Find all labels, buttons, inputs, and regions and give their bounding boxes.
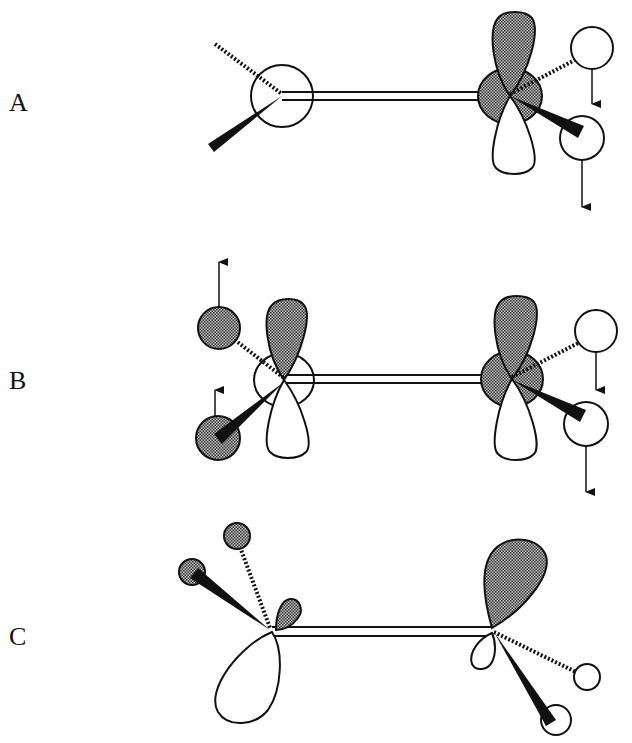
hydrogen-atom — [564, 402, 608, 446]
panel-c — [179, 523, 600, 735]
wedge-bond — [190, 568, 270, 630]
hydrogen-atom-shaded — [198, 307, 240, 349]
panel-b — [196, 262, 617, 492]
hybrid-orbital-shaded-lobe — [484, 540, 546, 628]
hydrogen-atom — [571, 27, 613, 69]
panel-a — [208, 12, 613, 207]
p-orbital-shaded-lobe — [267, 299, 307, 380]
hydrogen-atom — [560, 116, 604, 160]
hydrogen-atom — [575, 310, 617, 352]
wedge-bond — [494, 632, 556, 726]
hashed-bond — [240, 547, 270, 628]
hydrogen-atom-shaded — [224, 523, 250, 549]
hashed-bond — [215, 44, 282, 94]
hydrogen-atom — [574, 664, 600, 690]
hybrid-orbital-unshaded-lobe — [471, 633, 495, 669]
hybrid-orbital-unshaded-lobe — [215, 632, 280, 723]
orbital-diagram — [0, 0, 632, 743]
hybrid-orbital-shaded-lobe — [276, 599, 301, 630]
